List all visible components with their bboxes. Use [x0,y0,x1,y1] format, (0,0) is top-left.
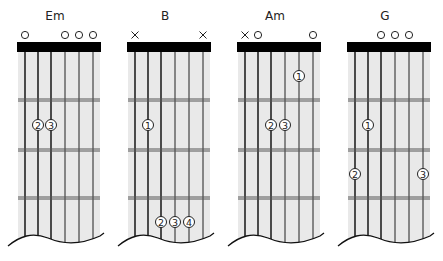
finger-marker: 4 [184,217,195,228]
nut [237,42,321,52]
svg-text:2: 2 [352,169,358,180]
svg-text:1: 1 [365,120,371,131]
svg-text:3: 3 [282,120,288,131]
fretboard: 1234 [110,0,220,261]
finger-marker: 2 [156,217,167,228]
finger-marker: 3 [170,217,181,228]
svg-text:3: 3 [48,120,54,131]
finger-marker: 2 [350,169,361,180]
svg-text:3: 3 [420,169,426,180]
chord-diagram-am: Am123 [220,0,330,261]
finger-marker: 3 [418,169,429,180]
svg-text:2: 2 [158,217,164,228]
finger-marker: 1 [143,120,154,131]
nut [127,42,211,52]
finger-marker: 1 [363,120,374,131]
finger-marker: 2 [266,120,277,131]
finger-marker: 1 [294,71,305,82]
open-string-icon [89,31,96,38]
open-string-icon [75,31,82,38]
svg-text:3: 3 [172,217,178,228]
nut [17,42,101,52]
open-string-icon [254,31,261,38]
nut [347,42,431,52]
muted-string-icon [242,32,249,39]
open-string-icon [377,31,384,38]
open-string-icon [391,31,398,38]
finger-marker: 3 [280,120,291,131]
finger-marker: 2 [33,120,44,131]
open-string-icon [405,31,412,38]
svg-text:4: 4 [186,217,192,228]
chord-diagram-b: B1234 [110,0,220,261]
muted-string-icon [132,32,139,39]
svg-text:1: 1 [145,120,151,131]
finger-marker: 3 [46,120,57,131]
open-string-icon [61,31,68,38]
svg-text:2: 2 [268,120,274,131]
svg-text:1: 1 [296,71,302,82]
muted-string-icon [200,32,207,39]
open-string-icon [309,31,316,38]
svg-text:2: 2 [35,120,41,131]
fretboard: 123 [220,0,330,261]
chord-diagram-em: Em23 [0,0,110,261]
chord-diagram-g: G123 [330,0,440,261]
open-string-icon [21,31,28,38]
fretboard: 123 [330,0,440,261]
fretboard: 23 [0,0,110,261]
